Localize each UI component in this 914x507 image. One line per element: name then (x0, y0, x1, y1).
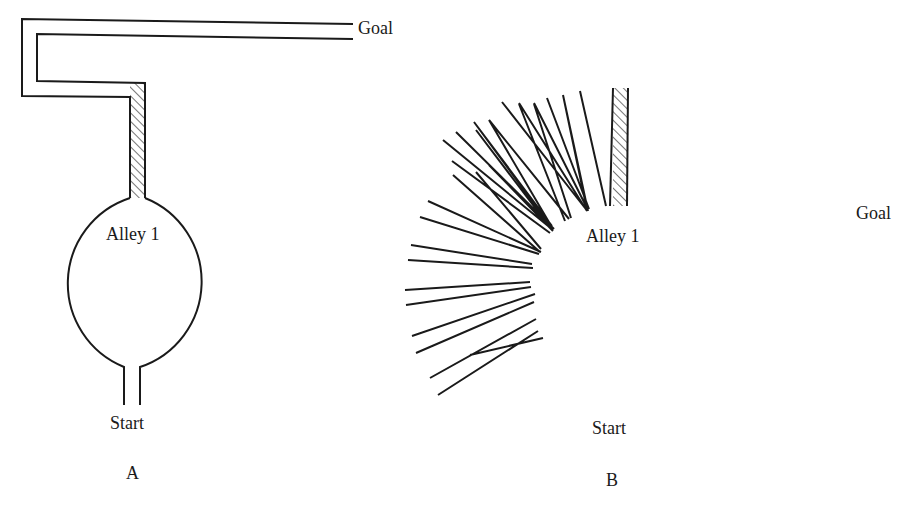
maze-b-blocked-alley (613, 88, 628, 206)
maze-a-blocked-alley (130, 83, 145, 198)
maze-b-center-label: Alley 1 (586, 226, 640, 247)
maze-a-goal-label: Goal (358, 18, 393, 39)
maze-a-panel-label: A (126, 463, 139, 484)
maze-b-goal-label: Goal (856, 203, 891, 224)
maze-b-start-label: Start (592, 418, 626, 439)
maze-b-panel-label: B (606, 470, 618, 491)
maze-a-center-label: Alley 1 (106, 224, 160, 245)
maze-a-path-outer (22, 19, 353, 198)
maze-b-alleys-left (405, 91, 606, 395)
maze-a-path-inner (37, 34, 353, 198)
maze-a-start-label: Start (110, 413, 144, 434)
maze-a (22, 19, 353, 405)
